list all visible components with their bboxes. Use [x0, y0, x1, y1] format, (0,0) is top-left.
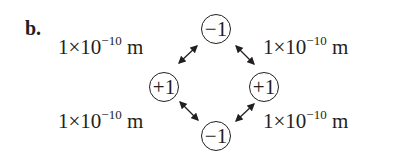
charge-left: +1 [149, 72, 179, 102]
double-arrow-icon-top-right [236, 46, 254, 64]
charge-top: −1 [201, 14, 231, 44]
charge-right: +1 [249, 72, 279, 102]
charge-bottom: −1 [201, 121, 231, 151]
double-arrow-icon-bottom-right [236, 104, 254, 121]
double-arrow-icon-top-left [179, 46, 197, 63]
double-arrow-icon-bottom-left [180, 102, 198, 120]
